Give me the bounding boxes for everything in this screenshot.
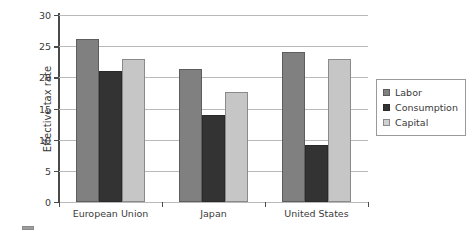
legend-item-capital: Capital [383,115,458,130]
gridline-0 [59,202,368,203]
x-tick-mark-1 [162,202,163,207]
capital-swatch-icon [383,119,390,126]
y-tick-mark-30 [54,15,59,16]
x-tick-mark-end-1 [368,202,369,207]
y-tick-mark-15 [54,109,59,110]
y-tick-label-0: 0 [45,197,51,208]
y-tick-label-15: 15 [39,103,51,114]
labor-swatch-icon [383,89,390,96]
y-tick-mark-25 [54,46,59,47]
cropped-caption-mark [22,226,34,230]
y-tick-label-5: 5 [45,165,51,176]
y-tick-label-20: 20 [39,72,51,83]
bar-united-states-consumption [305,145,328,202]
legend-label-consumption: Consumption [395,102,458,113]
bar-japan-consumption [202,115,225,202]
x-axis-label-united-states: United States [284,208,348,219]
bar-chart: Effective tax rate 051015202530 European… [0,0,468,234]
y-tick-mark-5 [54,171,59,172]
gridline-25 [59,46,368,47]
chart-legend: Labor Consumption Capital [376,79,466,136]
legend-label-capital: Capital [395,117,428,128]
bar-european-union-labor [76,39,99,202]
bar-japan-capital [225,92,248,202]
x-axis-label-european-union: European Union [73,208,149,219]
x-tick-mark-end-0 [59,202,60,207]
y-tick-label-25: 25 [39,41,51,52]
y-tick-label-30: 30 [39,10,51,21]
y-tick-label-10: 10 [39,134,51,145]
bar-united-states-labor [282,52,305,202]
bar-european-union-capital [122,59,145,202]
y-tick-mark-20 [54,77,59,78]
x-axis-label-japan: Japan [200,208,227,219]
legend-item-labor: Labor [383,85,458,100]
x-tick-mark-2 [265,202,266,207]
gridline-30 [59,15,368,16]
y-tick-mark-10 [54,140,59,141]
bar-japan-labor [179,69,202,202]
y-axis-title-container: Effective tax rate [0,15,22,202]
plot-area: 051015202530 [59,15,368,202]
bar-united-states-capital [328,59,351,202]
consumption-swatch-icon [383,104,390,111]
legend-label-labor: Labor [395,87,422,98]
legend-item-consumption: Consumption [383,100,458,115]
bar-european-union-consumption [99,71,122,202]
